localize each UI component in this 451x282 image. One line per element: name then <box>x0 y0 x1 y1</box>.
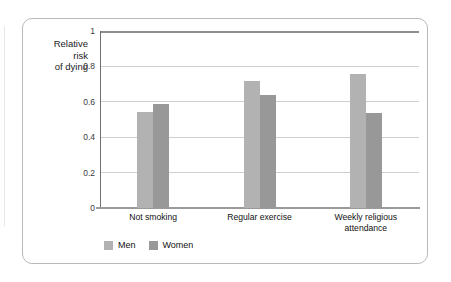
x-category-label: Weekly religious attendance <box>311 212 421 233</box>
bar-women-1 <box>260 95 276 208</box>
y-axis-title: Relative risk of dying <box>26 38 88 73</box>
bar-men-2 <box>350 74 366 208</box>
plot-area: 00.20.40.60.81 <box>100 31 419 208</box>
chart-legend: MenWomen <box>104 240 193 250</box>
y-axis-line <box>100 31 101 208</box>
y-tick-label: 1 <box>90 26 95 36</box>
legend-item-men: Men <box>104 240 136 250</box>
scan-artifact-line <box>4 26 5 226</box>
y-tick-label: 0.4 <box>83 132 95 142</box>
legend-swatch-icon <box>149 241 158 250</box>
bar-men-0 <box>137 112 153 208</box>
x-category-label: Regular exercise <box>205 212 315 223</box>
legend-label: Women <box>163 240 194 250</box>
bar-women-2 <box>366 113 382 208</box>
y-tick-label: 0.8 <box>83 61 95 71</box>
gridline <box>100 31 419 33</box>
y-tick-label: 0 <box>90 203 95 213</box>
bar-men-1 <box>244 81 260 208</box>
legend-item-women: Women <box>149 240 194 250</box>
plot-inner: 00.20.40.60.81 <box>100 31 419 208</box>
y-tick-label: 0.6 <box>83 97 95 107</box>
legend-swatch-icon <box>104 241 113 250</box>
bar-women-0 <box>153 104 169 208</box>
x-category-label: Not smoking <box>98 212 208 223</box>
y-tick-label: 0.2 <box>83 168 95 178</box>
legend-label: Men <box>118 240 136 250</box>
gridline <box>100 66 419 67</box>
